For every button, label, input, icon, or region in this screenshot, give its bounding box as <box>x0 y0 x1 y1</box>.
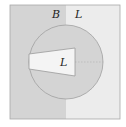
label-b: B <box>51 8 60 21</box>
label-l-wedge: L <box>59 56 67 69</box>
diagram: B L L <box>0 0 126 127</box>
label-l-top: L <box>74 8 82 21</box>
